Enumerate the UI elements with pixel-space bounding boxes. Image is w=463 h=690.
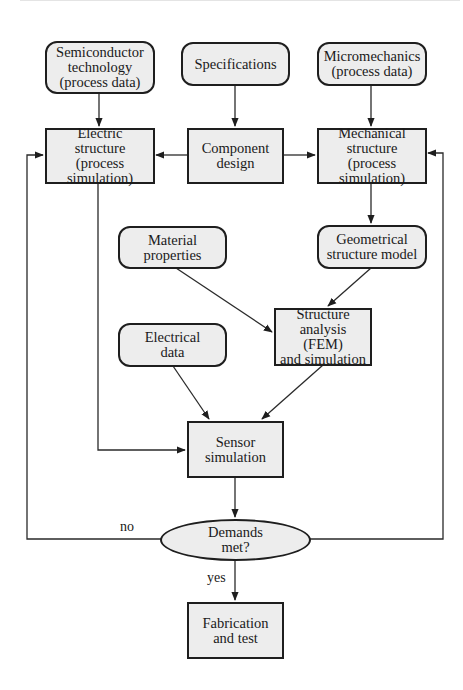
node-specifications: Specifications [181,42,290,86]
edge-geometrical-to-structure [328,268,371,306]
node-label: Electrical data [145,330,201,360]
node-label: Specifications [194,57,276,72]
node-label: Semiconductor technology (process data) [56,45,144,90]
node-label: Micromechanics (process data) [324,49,421,79]
node-label: Sensor simulation [205,435,266,465]
edge-electric-to-sensor [98,184,185,450]
node-label: Electric structure (process simulation) [50,126,150,186]
node-label: Structure analysis (FEM) and simulation [279,307,367,367]
connector-layer [0,0,463,690]
edge-label-no: no [120,520,134,534]
node-fabrication-and-test: Fabrication and test [187,602,284,659]
node-semiconductor-technology: Semiconductor technology (process data) [45,41,155,94]
node-label: Fabrication and test [202,616,268,646]
node-label: Component design [202,141,270,171]
node-electrical-data: Electrical data [118,323,227,367]
node-demands-met: Demands met? [160,519,311,561]
node-mechanical-structure: Mechanical structure (process simulation… [317,128,427,184]
node-geometrical-structure-model: Geometrical structure model [317,225,427,269]
node-sensor-simulation: Sensor simulation [187,421,284,478]
node-structure-analysis: Structure analysis (FEM) and simulation [274,308,372,366]
edge-electrical-to-sensor [173,366,209,419]
node-component-design: Component design [187,128,284,184]
node-label: Mechanical structure (process simulation… [322,126,422,186]
node-label: Material properties [144,233,202,263]
node-micromechanics: Micromechanics (process data) [317,42,427,86]
node-label: Geometrical structure model [327,232,418,262]
node-label: Demands met? [208,525,263,555]
node-electric-structure: Electric structure (process simulation) [45,128,155,184]
edge-label-yes: yes [207,571,226,585]
node-material-properties: Material properties [118,226,227,269]
edge-structure-to-sensor [262,365,323,419]
